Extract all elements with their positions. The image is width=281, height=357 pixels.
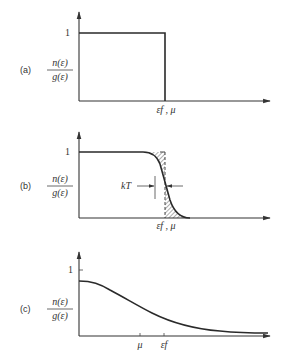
panel-b: 1 (b) n(ε) g(ε) εf , μ kT (20, 132, 270, 231)
panel-label: (b) (20, 181, 31, 191)
kt-label: kT (121, 180, 132, 191)
ylabel-denominator: g(ε) (52, 71, 68, 83)
high-temp-curve (79, 281, 268, 333)
x-tick-fermi: εf , μ (156, 104, 175, 115)
panel-label: (c) (20, 304, 31, 314)
ylabel-numerator: n(ε) (52, 173, 68, 185)
step-function-curve (79, 33, 165, 101)
panel-label: (a) (20, 65, 31, 75)
x-tick-fermi: εf , μ (156, 220, 175, 231)
y-tick-1: 1 (68, 264, 73, 275)
ylabel-numerator: n(ε) (52, 296, 68, 308)
panel-c: 1 (c) n(ε) g(ε) μ εf (20, 252, 270, 350)
ylabel-denominator: g(ε) (52, 310, 68, 322)
ylabel-numerator: n(ε) (52, 57, 68, 69)
y-tick-1: 1 (65, 146, 70, 157)
fermi-dirac-curve (79, 152, 190, 218)
ylabel-denominator: g(ε) (52, 187, 68, 199)
x-tick-mu: μ (136, 339, 142, 350)
fermi-dirac-diagram: 1 (a) n(ε) g(ε) εf , μ 1 (b) n(ε) g(ε) ε… (0, 0, 281, 357)
x-tick-fermi: εf (161, 339, 169, 350)
panel-a: 1 (a) n(ε) g(ε) εf , μ (20, 12, 270, 115)
y-tick-1: 1 (65, 27, 70, 38)
